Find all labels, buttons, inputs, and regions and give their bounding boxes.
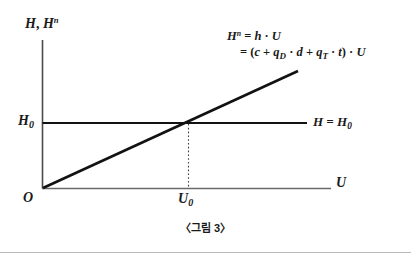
figure-container: H, Hn U O H0 U0 H = H0 Hn = h · U = (c +… [0,0,411,264]
x-tick-label-u0: U0 [178,192,193,208]
y-tick-label-h0-base: H [18,113,29,128]
constant-line-annotation: H = H0 [313,115,352,131]
figure-caption: 〈그림 3〉 [0,219,411,235]
equation-annotation: Hn = h · U = (c + qD · d + qT · t) · U [227,29,365,61]
bottom-divider [0,252,411,253]
x-tick-label-u0-subscript: 0 [188,197,193,208]
equation-line-1: Hn = h · U [227,29,365,45]
constant-line-annotation-subscript: 0 [347,121,352,131]
y-axis-label-superscript: n [54,15,59,25]
origin-label: O [23,191,33,205]
y-axis-label: H, Hn [25,16,59,31]
y-tick-label-h0: H0 [18,114,34,130]
equation-h-symbol: H [227,29,237,43]
proportional-line-hn [43,71,298,188]
x-tick-label-u0-base: U [178,191,188,206]
y-tick-label-h0-subscript: 0 [29,119,34,130]
y-axis-label-comma: , [36,16,43,31]
x-axis-label: U [336,176,346,190]
equation-line-2: = (c + qD · d + qT · t) · U [240,45,365,62]
y-axis-label-h: H [25,16,36,31]
y-axis-label-h2: H [43,16,54,31]
constant-line-annotation-base: H = H [313,114,347,129]
